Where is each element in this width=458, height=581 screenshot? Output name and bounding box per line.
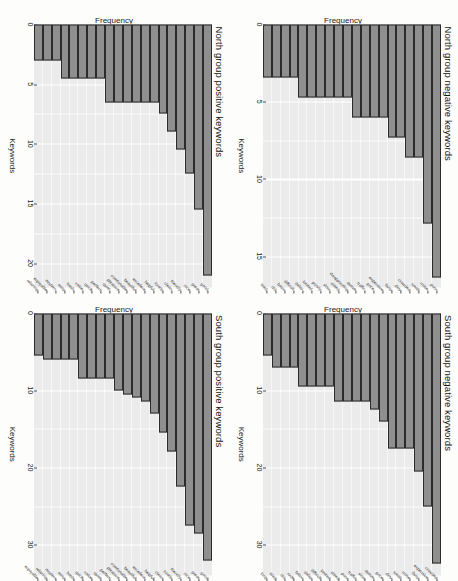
bar-row	[78, 313, 87, 576]
bar	[87, 313, 96, 379]
bar-row	[185, 24, 194, 287]
bar-row	[316, 313, 325, 576]
bar-row	[396, 24, 405, 287]
bar-row	[432, 24, 441, 287]
bar	[352, 313, 361, 402]
x-axis-label: Keywords	[8, 24, 17, 287]
bar-row	[388, 313, 397, 576]
value-tick-mark	[34, 24, 37, 25]
bar-row	[105, 24, 114, 287]
bar-row	[167, 313, 176, 576]
bar	[132, 313, 141, 398]
bar	[405, 313, 414, 448]
bar-row	[299, 313, 308, 576]
bar-row	[352, 24, 361, 287]
bar-row	[343, 24, 352, 287]
panel-south-negative: South group negative keywords Frequency …	[229, 289, 458, 578]
bar-row	[78, 24, 87, 287]
value-tick-label: 0	[27, 311, 34, 315]
value-tick-mark	[34, 203, 37, 204]
bar-row	[388, 24, 397, 287]
bar	[159, 313, 168, 433]
bar	[379, 24, 388, 117]
value-axis: 05101520	[22, 24, 34, 287]
plot-area	[34, 24, 212, 287]
bar-row	[405, 24, 414, 287]
bar-series	[34, 24, 212, 287]
value-tick-label: 20	[27, 259, 34, 267]
bar	[316, 24, 325, 97]
plot-area	[263, 24, 441, 287]
bar	[325, 313, 334, 386]
bar	[96, 24, 105, 78]
bar-row	[176, 313, 185, 576]
bar-row	[423, 313, 432, 576]
bar	[141, 313, 150, 402]
value-tick-mark	[34, 390, 37, 391]
bar-row	[159, 24, 168, 287]
value-tick-label: 20	[256, 463, 263, 471]
panel-south-positive: South group positive keywords Frequency …	[0, 289, 229, 578]
y-axis-label: Frequency	[96, 304, 134, 313]
bar-row	[167, 24, 176, 287]
bar-row	[114, 24, 123, 287]
bar-row	[34, 313, 43, 576]
bar	[272, 24, 281, 77]
bar	[414, 313, 423, 471]
bar	[185, 313, 194, 525]
value-tick-label: 0	[27, 22, 34, 26]
bar-row	[61, 24, 70, 287]
value-tick-label: 5	[256, 99, 263, 103]
bar-row	[87, 24, 96, 287]
panel-north-negative: North group negative keywords Frequency …	[229, 0, 458, 289]
value-tick-mark	[34, 544, 37, 545]
bar-row	[379, 24, 388, 287]
bar-row	[70, 313, 79, 576]
bar	[352, 24, 361, 117]
bar	[263, 313, 272, 355]
bar-row	[123, 24, 132, 287]
bar-row	[316, 24, 325, 287]
value-tick-label: 0	[256, 311, 263, 315]
value-tick-label: 10	[256, 386, 263, 394]
y-axis-label: Frequency	[325, 15, 363, 24]
bar-row	[290, 24, 299, 287]
bar	[379, 313, 388, 421]
bar	[52, 313, 61, 359]
bar	[361, 24, 370, 117]
bar	[388, 24, 397, 137]
bar	[167, 24, 176, 131]
value-tick-label: 15	[256, 252, 263, 260]
bar-row	[414, 313, 423, 576]
bar	[316, 313, 325, 386]
bar	[290, 24, 299, 77]
bar-row	[405, 313, 414, 576]
value-tick-mark	[263, 544, 266, 545]
bar-row	[43, 24, 52, 287]
bar-row	[423, 24, 432, 287]
bar-row	[361, 24, 370, 287]
bar-row	[105, 313, 114, 576]
plot-area	[34, 313, 212, 576]
bar	[290, 313, 299, 367]
value-axis: 0102030	[22, 313, 34, 576]
bar	[159, 24, 168, 113]
bar	[194, 313, 203, 533]
bar	[203, 313, 212, 560]
bar	[423, 313, 432, 506]
value-tick-label: 15	[27, 199, 34, 207]
bar-row	[281, 313, 290, 576]
bar	[123, 24, 132, 102]
bar	[396, 313, 405, 448]
bar	[96, 313, 105, 379]
value-tick-mark	[34, 143, 37, 144]
bar	[334, 313, 343, 402]
category-axis-labels: crowdedexpensivebusynoisesmalldirtyprice…	[263, 576, 441, 578]
bar-row	[159, 313, 168, 576]
bar-row	[194, 24, 203, 287]
bar	[52, 24, 61, 60]
bar-row	[114, 313, 123, 576]
bar-row	[132, 313, 141, 576]
